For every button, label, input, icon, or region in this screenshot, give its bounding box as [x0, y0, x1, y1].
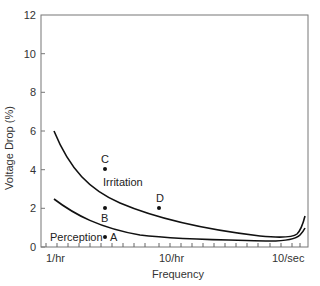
irritation-annotation: Irritation [103, 176, 143, 188]
point-c: C [101, 153, 109, 171]
y-tick-8: 8 [30, 86, 36, 98]
point-b: B [101, 206, 108, 224]
y-tick-12: 12 [24, 9, 36, 21]
perception-annotation: Perception [50, 231, 103, 243]
y-tick-0: 0 [30, 241, 36, 253]
point-b-label: B [101, 212, 108, 224]
x-tick-10-per-hr: 10/hr [159, 252, 184, 264]
x-axis-title: Frequency [152, 268, 204, 280]
y-tick-2: 2 [30, 202, 36, 214]
y-tick-4: 4 [30, 164, 36, 176]
x-tick-1-per-hr: 1/hr [46, 252, 65, 264]
y-tick-10: 10 [24, 48, 36, 60]
y-axis-title: Voltage Drop (%) [3, 106, 15, 190]
point-d-label: D [156, 192, 164, 204]
x-axis-ticks [46, 243, 300, 247]
chart-svg: 0 2 4 6 8 10 12 1/hr 10/hr 10/sec [0, 0, 320, 286]
y-axis [41, 54, 45, 247]
point-a: A [103, 231, 118, 243]
point-a-label: A [110, 231, 118, 243]
point-d: D [156, 192, 164, 210]
y-tick-labels: 0 2 4 6 8 10 12 [24, 9, 36, 253]
x-tick-10-per-sec: 10/sec [272, 252, 305, 264]
plot-frame [41, 15, 308, 247]
point-c-label: C [101, 153, 109, 165]
y-tick-6: 6 [30, 125, 36, 137]
